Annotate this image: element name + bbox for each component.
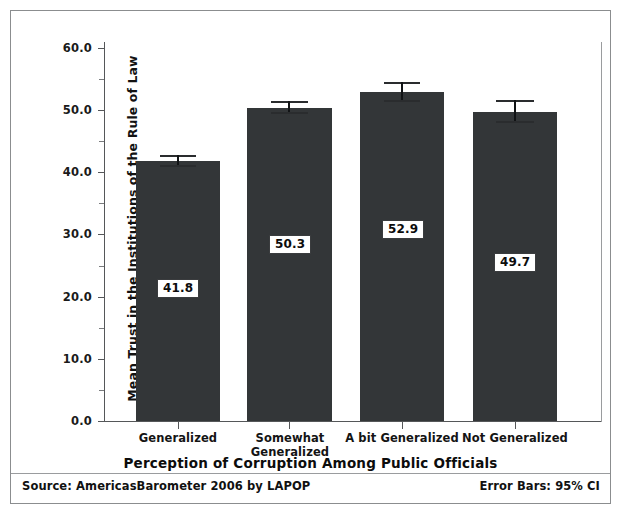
error-bar-stem-3 xyxy=(401,82,403,101)
x-tick-3 xyxy=(402,422,403,429)
y-tick-minor-25 xyxy=(99,266,104,267)
y-tick-30 xyxy=(98,234,104,235)
y-tick-0 xyxy=(98,421,104,422)
error-bar-cap-lower-1 xyxy=(160,165,196,167)
bar-value-label-4: 49.7 xyxy=(494,253,536,272)
y-tick-minor-15 xyxy=(99,328,104,329)
source-note: Source: AmericasBarometer 2006 by LAPOP xyxy=(22,479,310,493)
bar-a-bit-generalized xyxy=(360,92,444,421)
error-bar-stem-4 xyxy=(514,100,516,122)
y-tick-label-20: 20.0 xyxy=(38,290,92,304)
y-tick-40 xyxy=(98,172,104,173)
y-tick-20 xyxy=(98,297,104,298)
y-tick-50 xyxy=(98,110,104,111)
y-tick-label-50: 50.0 xyxy=(38,103,92,117)
x-tick-1 xyxy=(178,422,179,429)
y-tick-label-40: 40.0 xyxy=(38,165,92,179)
y-tick-label-30: 30.0 xyxy=(38,227,92,241)
footer-divider xyxy=(11,473,610,474)
y-tick-minor-5 xyxy=(99,390,104,391)
y-tick-minor-55 xyxy=(99,79,104,80)
chart-figure: Mean Trust in the Institutions of the Ru… xyxy=(0,0,622,513)
y-tick-label-60: 60.0 xyxy=(38,41,92,55)
y-tick-minor-45 xyxy=(99,141,104,142)
x-category-label-3: A bit Generalized xyxy=(335,431,469,445)
bar-value-label-1: 41.8 xyxy=(157,279,199,298)
bar-value-label-3: 52.9 xyxy=(382,220,424,239)
y-tick-minor-35 xyxy=(99,203,104,204)
x-tick-4 xyxy=(515,422,516,429)
y-tick-label-0: 0.0 xyxy=(38,414,92,428)
x-tick-2 xyxy=(289,422,290,429)
y-tick-label-10: 10.0 xyxy=(38,352,92,366)
x-category-label-4: Not Generalized xyxy=(452,431,578,445)
bar-somewhat-generalized xyxy=(247,108,332,421)
error-bar-note: Error Bars: 95% CI xyxy=(480,479,600,493)
y-tick-60 xyxy=(98,48,104,49)
x-axis-title: Perception of Corruption Among Public Of… xyxy=(10,455,611,471)
error-bar-cap-lower-4 xyxy=(496,121,534,123)
bar-value-label-2: 50.3 xyxy=(269,235,311,254)
error-bar-cap-lower-3 xyxy=(384,100,420,102)
error-bar-cap-lower-2 xyxy=(271,112,308,114)
x-category-label-1: Generalized xyxy=(118,431,238,445)
y-tick-10 xyxy=(98,359,104,360)
